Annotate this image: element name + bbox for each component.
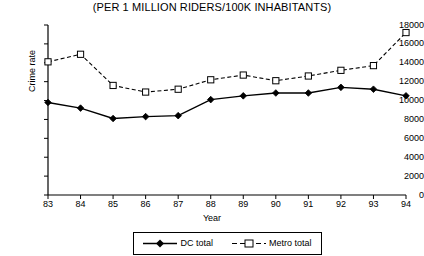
data-point-marker (403, 29, 409, 35)
data-point-marker (273, 78, 279, 84)
legend-item-dc-total: DC total (143, 238, 213, 249)
data-point-marker (110, 82, 116, 88)
axes (44, 25, 406, 199)
x-tick-label: 86 (131, 200, 161, 209)
data-point-marker (370, 86, 377, 93)
x-tick-label: 85 (98, 200, 128, 209)
data-point-marker (305, 73, 311, 79)
x-tick-label: 94 (391, 200, 421, 209)
data-point-marker (370, 63, 376, 69)
x-tick-label: 91 (293, 200, 323, 209)
data-series-group (45, 29, 410, 121)
data-point-marker (110, 115, 117, 122)
legend-item-metro-total: Metro total (232, 238, 312, 249)
data-point-marker (175, 112, 182, 119)
data-point-marker (77, 105, 84, 112)
crime-rate-line-chart: (PER 1 MILLION RIDERS/100K INHABITANTS) … (0, 0, 424, 256)
x-tick-label: 84 (66, 200, 96, 209)
data-point-marker (208, 77, 214, 83)
legend-label-metro-total: Metro total (269, 239, 312, 248)
legend-swatch-metro-total (232, 238, 266, 249)
data-point-marker (273, 90, 280, 97)
chart-legend: DC total Metro total (133, 232, 322, 255)
x-tick-label: 83 (33, 200, 63, 209)
x-tick-label: 88 (196, 200, 226, 209)
data-point-marker (305, 90, 312, 97)
plot-svg (48, 25, 406, 195)
data-point-marker (240, 72, 246, 78)
x-tick-label: 92 (326, 200, 356, 209)
x-tick-label: 93 (358, 200, 388, 209)
series-dc-total (45, 84, 410, 122)
plot-area (48, 25, 406, 195)
data-point-marker (77, 51, 83, 57)
y-axis-title: Crime rate (27, 38, 37, 104)
x-tick-label: 87 (163, 200, 193, 209)
x-tick-label: 89 (228, 200, 258, 209)
data-point-marker (207, 96, 214, 103)
data-point-marker (142, 113, 149, 120)
data-point-marker (240, 93, 247, 100)
legend-swatch-dc-total (143, 238, 177, 249)
x-axis-title: Year (0, 213, 424, 223)
legend-label-dc-total: DC total (180, 239, 213, 248)
data-point-marker (45, 59, 51, 65)
data-point-marker (338, 67, 344, 73)
series-metro-total (45, 29, 409, 95)
chart-title: (PER 1 MILLION RIDERS/100K INHABITANTS) (0, 1, 424, 13)
data-point-marker (175, 86, 181, 92)
data-point-marker (143, 89, 149, 95)
data-point-marker (338, 84, 345, 91)
x-tick-label: 90 (261, 200, 291, 209)
